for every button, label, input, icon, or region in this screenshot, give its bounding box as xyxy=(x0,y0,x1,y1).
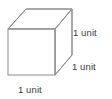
unit-cube-figure: 1 unit 1 unit 1 unit xyxy=(0,0,112,99)
label-height: 1 unit xyxy=(73,27,97,38)
cube-front-face xyxy=(8,29,55,75)
cube-drawing xyxy=(0,0,112,99)
label-width: 1 unit xyxy=(18,84,42,95)
label-depth: 1 unit xyxy=(72,61,96,72)
